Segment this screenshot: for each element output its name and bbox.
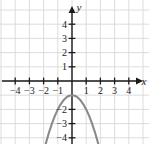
x-tick-label: −1 [52, 85, 63, 96]
coordinate-plane-svg: −4−3−2−112344321−2−3−4 x y [0, 0, 149, 144]
y-tick-label: 1 [62, 61, 67, 72]
gridlines [0, 0, 149, 144]
x-tick-label: 1 [84, 85, 89, 96]
y-axis-label: y [76, 1, 82, 13]
x-tick-label: −4 [10, 85, 21, 96]
x-tick-label: −2 [38, 85, 49, 96]
y-tick-label: 3 [62, 33, 67, 44]
y-axis-arrow-icon [69, 6, 76, 13]
x-axis-label: x [141, 75, 147, 87]
graph-figure: −4−3−2−112344321−2−3−4 x y [0, 0, 149, 144]
x-tick-label: 3 [112, 85, 117, 96]
x-tick-label: 4 [126, 85, 131, 96]
y-tick-label: −3 [56, 118, 67, 129]
y-tick-label: −4 [56, 132, 67, 143]
x-tick-label: −3 [24, 85, 35, 96]
x-tick-label: 2 [98, 85, 103, 96]
y-tick-label: 2 [62, 47, 67, 58]
y-tick-label: −2 [56, 104, 67, 115]
y-tick-label: 4 [62, 19, 67, 30]
